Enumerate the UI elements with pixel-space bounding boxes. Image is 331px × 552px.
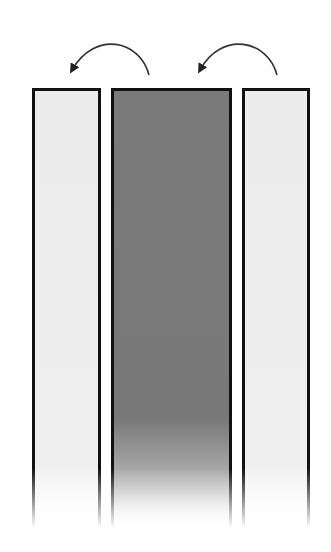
curved-arrow-right-icon	[200, 44, 277, 75]
curved-arrow-left-icon	[72, 44, 149, 75]
arrows-layer	[0, 0, 331, 552]
